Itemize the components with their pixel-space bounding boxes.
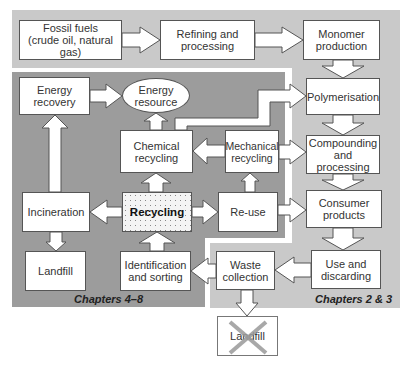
node-consumer-products-line2: products — [323, 209, 365, 221]
node-energy-resource: Energy resource — [122, 78, 190, 113]
node-incineration: Incineration — [22, 192, 90, 232]
node-refining: Refining and processing — [160, 20, 255, 60]
node-monomer-line1: Monomer — [318, 28, 364, 40]
node-incineration-line1: Incineration — [28, 206, 85, 218]
node-compounding: Compounding and processing — [306, 135, 380, 174]
node-reuse: Re-use — [218, 192, 278, 232]
node-energy-resource-line1: Energy — [139, 84, 174, 96]
node-identification-line2: and sorting — [128, 271, 182, 283]
node-mechanical-recycling-line1: Mechanical — [225, 140, 278, 152]
node-use-discarding-line1: Use and — [326, 258, 367, 270]
caption-chapters-2-3: Chapters 2 & 3 — [315, 293, 392, 305]
cross-out-icon — [218, 317, 279, 357]
node-fossil-fuels-line2: (crude oil, natural gas) — [20, 34, 121, 58]
node-waste-collection-line1: Waste — [230, 259, 261, 271]
node-use-discarding: Use and discarding — [311, 250, 381, 289]
node-mechanical-recycling-line2: recycling — [231, 152, 272, 164]
node-landfill: Landfill — [25, 251, 86, 291]
node-fossil-fuels-line1: Fossil fuels — [43, 22, 98, 34]
node-recycling: Recycling — [122, 192, 192, 232]
node-energy-recovery: Energy recovery — [19, 77, 90, 115]
caption-chapters-4-8: Chapters 4–8 — [74, 293, 143, 305]
node-polymerisation: Polymerisation — [306, 78, 380, 115]
node-monomer: Monomer production — [303, 20, 380, 60]
node-consumer-products-line1: Consumer — [319, 197, 370, 209]
node-compounding-line1: Compounding — [309, 137, 378, 149]
node-chemical-recycling-line2: recycling — [135, 152, 178, 164]
node-use-discarding-line2: discarding — [321, 270, 371, 282]
node-consumer-products: Consumer products — [306, 190, 382, 228]
node-chemical-recycling: Chemical recycling — [120, 130, 193, 173]
node-landfill-line1: Landfill — [38, 265, 73, 277]
node-recycling-line1: Recycling — [130, 206, 184, 218]
node-polymerisation-line1: Polymerisation — [307, 91, 379, 103]
node-energy-recovery-line1: Energy — [37, 84, 72, 96]
node-energy-recovery-line2: recovery — [33, 96, 75, 108]
node-reuse-line1: Re-use — [230, 206, 265, 218]
node-chemical-recycling-line1: Chemical — [134, 140, 180, 152]
node-identification: Identification and sorting — [120, 251, 191, 291]
node-waste-collection-line2: collection — [223, 271, 269, 283]
node-landfill-crossed: Landfill — [217, 316, 278, 356]
node-fossil-fuels: Fossil fuels (crude oil, natural gas) — [19, 20, 122, 60]
node-refining-line2: processing — [181, 40, 234, 52]
node-energy-resource-line2: resource — [135, 96, 178, 108]
node-refining-line1: Refining and — [177, 28, 239, 40]
node-monomer-line2: production — [316, 40, 367, 52]
node-mechanical-recycling: Mechanical recycling — [225, 130, 279, 173]
node-compounding-line2: and processing — [307, 149, 379, 173]
node-identification-line1: Identification — [125, 259, 187, 271]
node-waste-collection: Waste collection — [216, 251, 275, 290]
